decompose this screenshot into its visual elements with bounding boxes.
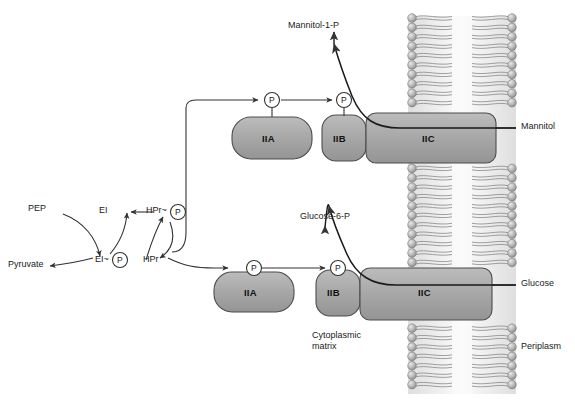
arrow-eip-to-ei	[110, 213, 127, 254]
phosphate-glyph-glucose-iia: P	[251, 263, 257, 274]
label-periplasm: Periplasm	[521, 341, 561, 352]
pts-diagram-figure: PEP Pyruvate EI EI~ HPr~ HPr P P P P P P…	[0, 0, 575, 408]
label-mannitol: Mannitol	[521, 121, 555, 132]
phosphate-glyph-mannitol-iib: P	[341, 95, 347, 106]
arrow-hprp-to-hpr	[160, 222, 173, 258]
protein-label-iib-glucose: IIB	[327, 287, 340, 298]
proteins-and-arrows	[0, 0, 575, 408]
branch-to-glucose-iia	[168, 258, 228, 268]
arrow-pep-to-eip	[63, 214, 100, 256]
label-mannitol-1-phosphate: Mannitol-1-P	[288, 20, 339, 31]
label-glucose-6-phosphate: Glucose-6-P	[300, 211, 350, 222]
label-hpr: HPr	[143, 254, 159, 265]
label-ei: EI	[99, 205, 108, 216]
label-cytoplasmic-matrix: Cytoplasmicmatrix	[312, 330, 374, 352]
label-ei-phosphate: EI~	[95, 254, 109, 265]
label-hpr-phosphate: HPr~	[146, 205, 167, 216]
label-pep: PEP	[28, 203, 46, 214]
phosphate-glyph-ei: P	[117, 255, 123, 266]
protein-label-iic-glucose: IIC	[418, 287, 431, 298]
protein-label-iic-mannitol: IIC	[422, 133, 435, 144]
label-glucose: Glucose	[521, 278, 554, 289]
protein-label-iia-glucose: IIA	[244, 287, 257, 298]
phosphate-glyph-mannitol-iia: P	[269, 95, 275, 106]
phosphate-circles	[113, 93, 352, 276]
phosphate-glyph-glucose-iib: P	[335, 263, 341, 274]
label-pyruvate: Pyruvate	[8, 259, 44, 270]
protein-label-iib-mannitol: IIB	[333, 133, 346, 144]
arrow-eip-to-pyruvate	[50, 258, 93, 266]
phosphate-glyph-hpr: P	[175, 207, 181, 218]
protein-label-iia-mannitol: IIA	[262, 133, 275, 144]
